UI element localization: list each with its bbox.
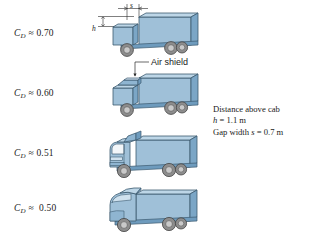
- truck-illustration-row-3: [110, 131, 197, 178]
- air-shield: [118, 78, 141, 85]
- truck-illustration-row-4: [110, 188, 197, 232]
- cab: [110, 188, 141, 221]
- cab: [113, 24, 138, 45]
- truck-drag-figure: CD ≈ 0.70 CD ≈ 0.60 CD ≈ 0.51 CD ≈ 0.50 …: [0, 0, 325, 237]
- cab: [113, 85, 138, 105]
- trailer-box: [139, 74, 198, 105]
- truck-illustration-row-1: [98, 4, 198, 56]
- truck-illustrations: [0, 0, 325, 237]
- trailer-box: [136, 190, 197, 221]
- trailer-box: [139, 13, 198, 45]
- trailer-box: [136, 136, 197, 167]
- truck-illustration-row-2: [113, 62, 198, 116]
